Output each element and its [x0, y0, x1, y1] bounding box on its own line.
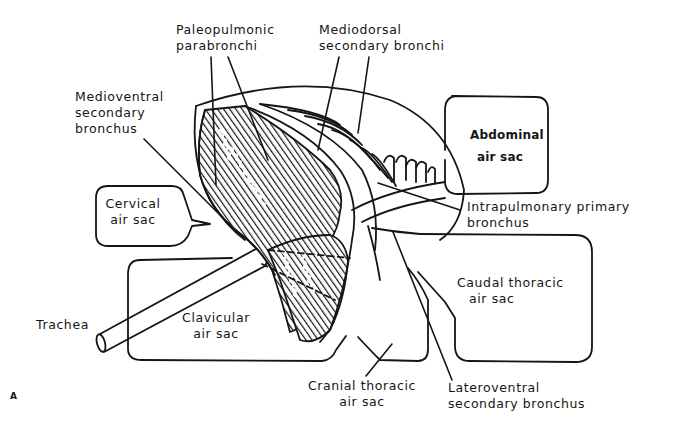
label-paleopulmonic-parabronchi: Paleopulmonic parabronchi	[176, 22, 275, 54]
intrapulmonary-primary-bronchus	[352, 182, 445, 210]
label-medioventral-secondary-bronchus: Medioventral secondary bronchus	[75, 89, 164, 137]
label-mediodorsal-secondary-bronchi: Mediodorsal secondary bronchi	[319, 22, 445, 54]
label-cranial-thoracic-air-sac: Cranial thoracic air sac	[298, 378, 426, 410]
cranial-thoracic-air-sac-outline	[358, 268, 428, 361]
label-caudal-thoracic-air-sac: Caudal thoracic air sac	[457, 275, 564, 307]
label-lateroventral-secondary-bronchus: Lateroventral secondary bronchus	[448, 380, 585, 412]
label-intrapulmonary-primary-bronchus: Intrapulmonary primary bronchus	[467, 199, 630, 231]
panel-label: A	[10, 388, 18, 404]
label-abdominal-air-sac: Abdominal air sac	[470, 127, 530, 165]
label-trachea: Trachea	[36, 317, 89, 333]
label-clavicular-air-sac: Clavicular air sac	[176, 310, 256, 342]
label-cervical-air-sac: Cervical air sac	[100, 196, 166, 228]
